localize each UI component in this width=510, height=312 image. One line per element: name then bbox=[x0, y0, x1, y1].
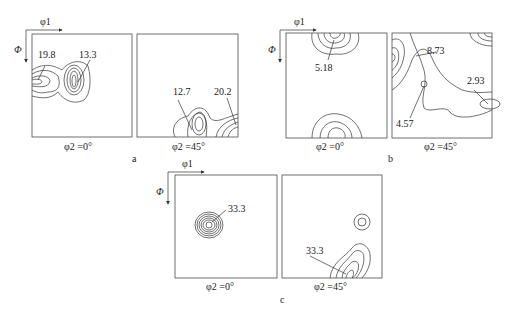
axes-b bbox=[280, 30, 316, 62]
annotation: 8.73 bbox=[427, 45, 445, 56]
annotation: 20.2 bbox=[214, 86, 232, 97]
contours-a-45 bbox=[173, 98, 238, 137]
caption: φ2 =0° bbox=[64, 141, 92, 152]
panel-label-a: a bbox=[132, 153, 136, 164]
annotation: 33.3 bbox=[228, 203, 246, 214]
annotation: 5.18 bbox=[315, 62, 333, 73]
section-c-0 bbox=[175, 175, 277, 278]
annotation: 13.3 bbox=[79, 49, 97, 60]
axis-phi1-c: φ1 bbox=[182, 158, 193, 169]
axes-c bbox=[168, 172, 204, 204]
contours-a-0 bbox=[32, 60, 90, 102]
annotation: 19.8 bbox=[38, 49, 56, 60]
contours-c-0 bbox=[195, 210, 226, 238]
axis-Phi-c: Φ bbox=[156, 186, 164, 197]
annotation: 12.7 bbox=[173, 86, 191, 97]
contours-b-0 bbox=[312, 33, 362, 138]
axis-phi1-b: φ1 bbox=[294, 16, 305, 27]
caption: φ2 =0° bbox=[206, 281, 234, 292]
panel-label-c: c bbox=[280, 294, 284, 305]
annotation: 2.93 bbox=[467, 75, 485, 86]
caption: φ2 =45° bbox=[314, 281, 347, 292]
caption: φ2 =0° bbox=[316, 141, 344, 152]
caption: φ2 =45° bbox=[172, 141, 205, 152]
panel-label-b: b bbox=[388, 153, 393, 164]
annotation: 4.57 bbox=[396, 118, 414, 129]
section-c-45 bbox=[282, 175, 382, 278]
caption: φ2 =45° bbox=[424, 141, 457, 152]
axis-Phi-b: Φ bbox=[268, 44, 276, 55]
annotation: 33.3 bbox=[306, 245, 324, 256]
axis-phi1-a: φ1 bbox=[40, 16, 51, 27]
section-b-0 bbox=[286, 33, 387, 138]
axis-Phi-a: Φ bbox=[14, 44, 22, 55]
